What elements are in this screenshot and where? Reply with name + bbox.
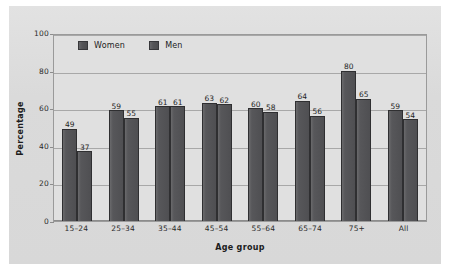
bar[interactable]: 64 [295, 101, 310, 221]
bar-value-label: 63 [204, 95, 214, 103]
x-axis-tick-label: 45–54 [193, 224, 240, 233]
bar-slot: 54 [403, 35, 418, 221]
bar-value-label: 59 [111, 103, 121, 111]
bar[interactable]: 59 [109, 110, 124, 221]
legend-label: Women [94, 41, 125, 50]
bar-group: 5955 [101, 35, 148, 221]
bar[interactable]: 59 [388, 110, 403, 221]
bar-value-label: 56 [312, 108, 322, 116]
legend-item[interactable]: Men [149, 41, 183, 50]
bar-value-label: 49 [65, 121, 75, 129]
bar-value-label: 64 [297, 93, 307, 101]
bar-slot: 80 [341, 35, 356, 221]
bar-group: 5954 [380, 35, 427, 221]
legend-swatch-icon [78, 41, 88, 50]
bar-slot: 65 [356, 35, 371, 221]
bar-slot: 64 [295, 35, 310, 221]
legend-label: Men [165, 41, 183, 50]
bar-slot: 63 [202, 35, 217, 221]
bar-slot: 61 [155, 35, 170, 221]
bar-value-label: 55 [126, 110, 136, 118]
x-axis-tick-label: All [380, 224, 427, 233]
bar[interactable]: 55 [124, 118, 139, 221]
y-axis-tick-mark [50, 222, 54, 223]
bar-slot: 59 [388, 35, 403, 221]
bar[interactable]: 63 [202, 103, 217, 221]
x-axis-tick-label: 25–34 [100, 224, 147, 233]
bar-value-label: 54 [405, 112, 415, 120]
bar-value-label: 65 [359, 91, 369, 99]
legend-item[interactable]: Women [78, 41, 125, 50]
bar[interactable]: 62 [217, 104, 232, 221]
x-axis-tick-label: 35–44 [147, 224, 194, 233]
bar-value-label: 59 [390, 103, 400, 111]
plot-area: 49375955616163626058645680655954 [53, 34, 427, 222]
bar[interactable]: 56 [310, 116, 325, 221]
bar-value-label: 61 [158, 99, 168, 107]
bar-value-label: 60 [251, 101, 261, 109]
bar-value-label: 80 [344, 63, 354, 71]
bar-slot: 37 [77, 35, 92, 221]
x-axis-tick-labels: 15–2425–3435–4445–5455–6465–7475+All [53, 224, 427, 233]
x-axis-tick-label: 15–24 [53, 224, 100, 233]
bar-slot: 62 [217, 35, 232, 221]
x-axis-tick-label: 75+ [334, 224, 381, 233]
bar-group: 6362 [194, 35, 241, 221]
bar-groups: 49375955616163626058645680655954 [54, 35, 426, 221]
bar[interactable]: 49 [62, 129, 77, 221]
bar[interactable]: 61 [170, 106, 185, 221]
bar[interactable]: 60 [248, 108, 263, 221]
bar-value-label: 58 [266, 104, 276, 112]
x-axis-tick-label: 65–74 [287, 224, 334, 233]
bar-value-label: 61 [173, 99, 183, 107]
bar-value-label: 62 [219, 97, 229, 105]
bar-slot: 56 [310, 35, 325, 221]
bar-slot: 60 [248, 35, 263, 221]
chart-legend: WomenMen [78, 41, 183, 50]
bar-slot: 61 [170, 35, 185, 221]
bar[interactable]: 58 [263, 112, 278, 221]
bar-slot: 58 [263, 35, 278, 221]
bar-group: 6456 [287, 35, 334, 221]
bar-value-label: 37 [80, 144, 90, 152]
bar-slot: 59 [109, 35, 124, 221]
bar[interactable]: 54 [403, 119, 418, 221]
y-axis-tick-marks [0, 34, 60, 222]
bar[interactable]: 80 [341, 71, 356, 221]
bar-group: 8065 [333, 35, 380, 221]
bar[interactable]: 65 [356, 99, 371, 221]
x-axis-title: Age group [53, 243, 427, 252]
bar-group: 6161 [147, 35, 194, 221]
bar-slot: 55 [124, 35, 139, 221]
x-axis-tick-label: 55–64 [240, 224, 287, 233]
bar[interactable]: 61 [155, 106, 170, 221]
chart-figure: Percentage 020406080100 4937595561616362… [0, 0, 450, 278]
bar[interactable]: 37 [77, 151, 92, 221]
bar-slot: 49 [62, 35, 77, 221]
legend-swatch-icon [149, 41, 159, 50]
bar-group: 6058 [240, 35, 287, 221]
bar-group: 4937 [54, 35, 101, 221]
